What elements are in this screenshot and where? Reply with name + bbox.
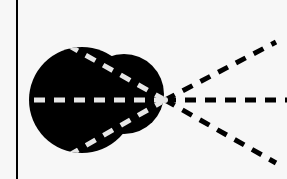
diagram-svg [0, 0, 287, 179]
apex-point [162, 97, 168, 103]
ray-lower-right [165, 100, 276, 163]
ray-upper-right [165, 42, 276, 100]
dashed-rays-outer [165, 42, 287, 163]
diagram-canvas [0, 0, 287, 179]
